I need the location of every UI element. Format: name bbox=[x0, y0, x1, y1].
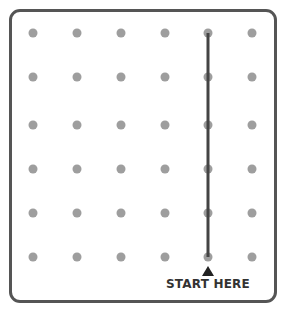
grid-dot[interactable] bbox=[117, 253, 126, 262]
start-here-label: START HERE bbox=[166, 277, 250, 291]
grid-dot[interactable] bbox=[248, 29, 257, 38]
grid-dot[interactable] bbox=[161, 73, 170, 82]
grid-dot[interactable] bbox=[248, 121, 257, 130]
grid-dot[interactable] bbox=[73, 29, 82, 38]
grid-dot[interactable] bbox=[73, 253, 82, 262]
grid-dot[interactable] bbox=[161, 165, 170, 174]
grid-dot[interactable] bbox=[29, 209, 38, 218]
grid-dot[interactable] bbox=[248, 253, 257, 262]
grid-dot[interactable] bbox=[73, 165, 82, 174]
drawn-path-line bbox=[207, 33, 210, 257]
grid-dot[interactable] bbox=[161, 253, 170, 262]
grid-dot[interactable] bbox=[29, 29, 38, 38]
grid-dot[interactable] bbox=[117, 29, 126, 38]
grid-dot[interactable] bbox=[248, 73, 257, 82]
grid-dot[interactable] bbox=[117, 165, 126, 174]
grid-dot[interactable] bbox=[161, 121, 170, 130]
grid-dot[interactable] bbox=[248, 165, 257, 174]
grid-dot[interactable] bbox=[161, 209, 170, 218]
grid-dot[interactable] bbox=[117, 121, 126, 130]
grid-dot[interactable] bbox=[248, 209, 257, 218]
start-arrow-icon bbox=[202, 266, 214, 276]
grid-dot[interactable] bbox=[29, 165, 38, 174]
grid-dot[interactable] bbox=[73, 209, 82, 218]
grid-dot[interactable] bbox=[29, 121, 38, 130]
board-frame bbox=[9, 9, 277, 303]
grid-dot[interactable] bbox=[29, 73, 38, 82]
grid-dot[interactable] bbox=[73, 73, 82, 82]
grid-dot[interactable] bbox=[73, 121, 82, 130]
grid-dot[interactable] bbox=[161, 29, 170, 38]
grid-dot[interactable] bbox=[29, 253, 38, 262]
grid-dot[interactable] bbox=[117, 209, 126, 218]
grid-dot[interactable] bbox=[117, 73, 126, 82]
